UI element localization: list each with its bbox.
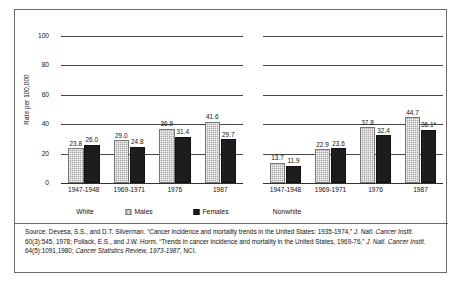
bar-value-label: 32.4 [377, 127, 389, 134]
bar-value-label: 37.8 [361, 119, 373, 126]
bar-value-label: 26.0 [86, 136, 98, 143]
bar-value-label: 11.9 [288, 157, 300, 164]
bar-nonwhite-females-1947-1948 [286, 166, 302, 183]
y-tick-60: 60 [23, 91, 49, 98]
bar-white-females-1969-1971 [130, 147, 146, 183]
bar-nonwhite-females-1976 [376, 135, 392, 183]
source-segment: J. Natl. Cancer Instit. [366, 238, 425, 245]
bar-value-label: 44.7 [406, 109, 418, 116]
bar-value-label: 24.8 [131, 138, 143, 145]
x-tick-1947-1948: 1947-1948 [68, 186, 100, 193]
source-divider [15, 223, 448, 224]
group-label-nonwhite: Nonwhite [273, 208, 301, 215]
bar-value-label: 13.7 [271, 154, 283, 161]
bar-white-males-1947-1948 [68, 148, 84, 183]
x-tick-1947-1948: 1947-1948 [270, 186, 302, 193]
bar-value-label: 36.1* [421, 121, 436, 128]
gridline-100 [263, 36, 443, 37]
x-axis-baseline [61, 183, 243, 184]
source-segment: 60(3):545, 1978; Pollack, E.S., and J.W.… [25, 238, 366, 245]
x-tick-1969-1971: 1969-1971 [113, 186, 145, 193]
bar-value-label: 41.6 [206, 113, 218, 120]
bar-value-label: 29.0 [115, 132, 127, 139]
bar-nonwhite-males-1987 [405, 117, 421, 183]
bar-nonwhite-females-1969-1971 [331, 148, 347, 183]
group-label-white: White [76, 208, 93, 215]
legend-label: Males [134, 208, 152, 215]
x-tick-1976: 1976 [368, 186, 383, 193]
gridline-80 [61, 65, 243, 66]
bar-nonwhite-males-1947-1948 [270, 163, 286, 183]
y-tick-0: 0 [23, 179, 49, 186]
source-segment: 64(5):1091,1980; [25, 247, 75, 254]
bar-value-label: 29.7 [222, 131, 234, 138]
source-segment: Cancer Statistics Review, 1973-1987, [75, 247, 181, 254]
bar-value-label: 23.8 [70, 140, 82, 147]
legend-label: Females [202, 208, 228, 215]
bar-white-males-1976 [159, 129, 175, 183]
bar-white-females-1947-1948 [84, 145, 100, 183]
legend-item-males: Males [125, 208, 152, 215]
legend-swatch-females [193, 209, 199, 215]
bar-nonwhite-males-1976 [360, 127, 376, 183]
plot-area: Rate per 100,000 020406080100 23.826.029… [15, 10, 448, 198]
source-segment: NCI. [182, 247, 197, 254]
bar-value-label: 31.4 [177, 128, 189, 135]
bar-value-label: 22.9 [316, 141, 328, 148]
y-tick-100: 100 [23, 32, 49, 39]
x-tick-1976: 1976 [167, 186, 182, 193]
bar-value-label: 23.6 [332, 140, 344, 147]
gridline-60 [61, 95, 243, 96]
bar-white-females-1976 [175, 137, 191, 183]
bar-value-label: 36.9 [161, 120, 173, 127]
gridline-60 [263, 95, 443, 96]
x-tick-1969-1971: 1969-1971 [315, 186, 347, 193]
x-axis-baseline [263, 183, 443, 184]
x-tick-1987: 1987 [213, 186, 228, 193]
gridline-80 [263, 65, 443, 66]
source-note: Source: Devesa, S.S., and D.T. Silverman… [25, 227, 440, 256]
bar-nonwhite-females-1987 [421, 130, 437, 183]
bar-white-females-1987 [221, 139, 237, 183]
bar-white-males-1987 [205, 122, 221, 183]
y-tick-20: 20 [23, 150, 49, 157]
legend-swatch-males [125, 209, 131, 215]
y-tick-40: 40 [23, 120, 49, 127]
source-segment: J. Natl. Cancer Instit. [354, 228, 413, 235]
y-tick-80: 80 [23, 61, 49, 68]
legend-item-females: Females [193, 208, 228, 215]
bar-white-males-1969-1971 [114, 140, 130, 183]
chart-legend: WhiteNonwhiteMalesFemales [15, 206, 448, 220]
x-tick-1987: 1987 [413, 186, 428, 193]
bar-nonwhite-males-1969-1971 [315, 149, 331, 183]
source-segment: Source: Devesa, S.S., and D.T. Silverman… [25, 228, 354, 235]
chart-figure: Rate per 100,000 020406080100 23.826.029… [14, 9, 447, 273]
gridline-100 [61, 36, 243, 37]
